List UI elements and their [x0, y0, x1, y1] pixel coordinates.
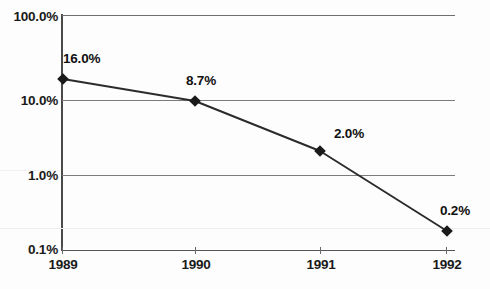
data-label-1991: 2.0%: [334, 126, 364, 141]
chart-screenshot: 100.0% 10.0% 1.0% 0.1% 1989 1990 1991 19…: [0, 0, 490, 289]
series-line-chart: [0, 0, 490, 289]
data-marker-1989: [57, 73, 69, 85]
series-polyline: [63, 79, 447, 231]
data-label-1989: 16.0%: [63, 51, 100, 66]
data-marker-1992: [441, 225, 453, 237]
data-label-1992: 0.2%: [440, 203, 470, 218]
data-marker-1990: [189, 95, 201, 107]
data-label-1990: 8.7%: [186, 73, 216, 88]
data-marker-1991: [314, 145, 326, 157]
